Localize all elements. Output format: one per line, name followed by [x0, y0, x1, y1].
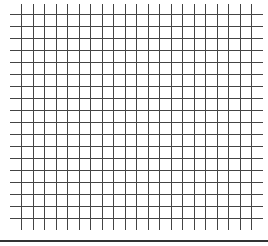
bottom-rule: [0, 240, 268, 242]
grid-paper: [0, 0, 268, 246]
